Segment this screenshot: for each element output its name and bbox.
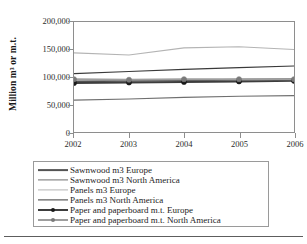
x-tick-label: 2003 — [120, 139, 137, 149]
legend-item[interactable]: Panels m3 Europe — [38, 185, 264, 195]
y-tick-mark — [68, 21, 73, 22]
series-line — [74, 96, 294, 100]
legend-label: Paper and paperboard m.t. North America — [70, 215, 221, 225]
series-marker — [126, 77, 131, 82]
chart-figure: Million m³ or m.t. 200,000150,000100,000… — [0, 0, 307, 244]
x-tick-mark — [129, 133, 130, 138]
legend-swatch-icon — [38, 175, 68, 185]
series-marker — [236, 77, 241, 82]
series-marker — [181, 77, 186, 82]
x-tick-label: 2006 — [287, 139, 304, 149]
y-tick-label: 200,000 — [26, 16, 70, 26]
legend-label: Panels m3 North America — [70, 195, 163, 205]
y-axis-title: Million m³ or m.t. — [6, 14, 20, 134]
x-tick-label: 2005 — [231, 139, 248, 149]
y-tick-mark — [68, 105, 73, 106]
footer-rule — [4, 236, 303, 237]
legend-item[interactable]: Sawnwood m3 North America — [38, 175, 264, 185]
legend-label: Sawnwood m3 North America — [70, 175, 180, 185]
legend-swatch-icon — [38, 195, 68, 205]
y-tick-label: 0 — [26, 128, 70, 138]
legend-item[interactable]: Paper and paperboard m.t. Europe — [38, 205, 264, 215]
y-axis-title-text: Million m³ or m.t. — [8, 37, 18, 111]
x-axis-tick-labels: 20022003200420052006 — [73, 139, 295, 153]
y-tick-label: 50,000 — [26, 100, 70, 110]
x-tick-mark — [240, 133, 241, 138]
y-tick-mark — [68, 49, 73, 50]
y-tick-label: 150,000 — [26, 44, 70, 54]
series-marker — [291, 77, 294, 82]
y-tick-label: 100,000 — [26, 72, 70, 82]
plot-area — [73, 21, 295, 133]
x-tick-mark — [184, 133, 185, 138]
legend-swatch-icon — [38, 185, 68, 195]
legend-label: Sawnwood m3 Europe — [70, 165, 152, 175]
x-tick-mark — [73, 133, 74, 138]
chart-legend: Sawnwood m3 EuropeSawnwood m3 North Amer… — [33, 161, 269, 227]
legend-label: Paper and paperboard m.t. Europe — [70, 205, 193, 215]
x-tick-label: 2002 — [65, 139, 82, 149]
legend-swatch-icon — [38, 215, 68, 225]
legend-item[interactable]: Sawnwood m3 Europe — [38, 165, 264, 175]
legend-swatch-icon — [38, 205, 68, 215]
y-tick-mark — [68, 77, 73, 78]
series-line — [74, 66, 294, 74]
x-tick-mark — [295, 133, 296, 138]
legend-swatch-icon — [38, 165, 68, 175]
x-tick-label: 2004 — [176, 139, 193, 149]
legend-item[interactable]: Paper and paperboard m.t. North America — [38, 215, 264, 225]
series-marker — [74, 77, 77, 82]
series-canvas — [74, 22, 294, 132]
legend-label: Panels m3 Europe — [70, 185, 136, 195]
legend-item[interactable]: Panels m3 North America — [38, 195, 264, 205]
series-line — [74, 47, 294, 55]
